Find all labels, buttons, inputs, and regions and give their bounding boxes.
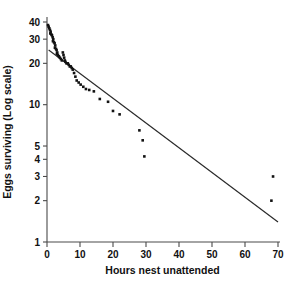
y-tick-label: 1: [34, 237, 40, 248]
data-point: [141, 139, 144, 142]
data-point: [55, 49, 58, 52]
data-point: [107, 100, 110, 103]
y-tick-label: 5: [34, 141, 40, 152]
data-point: [85, 88, 88, 91]
data-point: [272, 175, 275, 178]
data-point: [54, 44, 57, 47]
data-point: [71, 68, 74, 71]
y-tick-label: 20: [29, 58, 41, 69]
semilog-scatter-plot: 1234510203040010203040506070Hours nest u…: [0, 0, 286, 288]
y-tick-label: 3: [34, 171, 40, 182]
x-tick-label: 30: [140, 249, 152, 260]
data-point: [62, 54, 65, 57]
chart-figure: 1234510203040010203040506070Hours nest u…: [0, 0, 286, 288]
data-point: [73, 72, 76, 75]
data-point: [118, 113, 121, 116]
x-axis-title: Hours nest unattended: [105, 264, 219, 276]
data-point: [143, 155, 146, 158]
data-point: [61, 59, 64, 62]
data-point: [138, 129, 141, 132]
data-point: [99, 98, 102, 101]
x-tick-label: 10: [74, 249, 86, 260]
x-tick-label: 20: [107, 249, 119, 260]
x-tick-label: 50: [206, 249, 218, 260]
data-point: [62, 51, 65, 54]
x-tick-label: 40: [173, 249, 185, 260]
y-axis-title: Eggs surviving (Log scale): [1, 65, 13, 199]
y-tick-label: 10: [29, 99, 41, 110]
data-point: [82, 85, 85, 88]
data-point: [112, 110, 115, 113]
regression-line: [49, 50, 278, 222]
x-tick-label: 60: [239, 249, 251, 260]
data-point: [63, 56, 66, 59]
x-tick-label: 0: [44, 249, 50, 260]
y-tick-label: 40: [29, 17, 41, 28]
x-tick-label: 70: [272, 249, 284, 260]
data-point: [74, 75, 77, 78]
data-point: [79, 83, 82, 86]
data-point: [88, 89, 91, 92]
y-tick-label: 4: [34, 154, 40, 165]
data-point: [93, 90, 96, 93]
y-tick-label: 30: [29, 34, 41, 45]
y-tick-label: 2: [34, 195, 40, 206]
data-point: [270, 199, 273, 202]
